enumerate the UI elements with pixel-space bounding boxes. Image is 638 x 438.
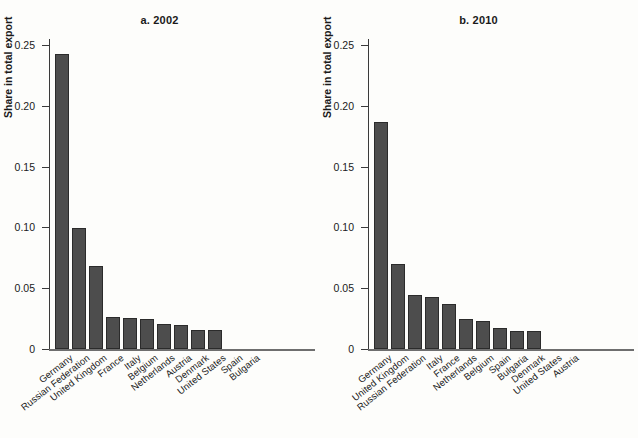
panel-a-title: a. 2002: [0, 14, 319, 26]
bar: [493, 328, 507, 349]
bar: [174, 325, 188, 349]
bar: [408, 295, 422, 349]
panel-b-y-tick-label: 0: [348, 343, 354, 355]
panel-b-y-axis-line: [368, 39, 369, 350]
panel-a-y-tick-label: 0.05: [15, 282, 35, 294]
panel-b-title: b. 2010: [319, 14, 638, 26]
panel-b-y-tick-label: 0.15: [334, 161, 354, 173]
bar-cell: [206, 45, 223, 349]
bar: [89, 266, 103, 349]
panel-a-x-tick-labels: GermanyRussian FederationUnited KingdomF…: [53, 352, 315, 438]
bar-cell: [53, 45, 70, 349]
panel-a-y-tick-mark: [42, 288, 49, 289]
bar: [374, 122, 388, 349]
bar: [106, 317, 120, 349]
panel-a-y-tick-label: 0.25: [15, 39, 35, 51]
bar: [191, 330, 205, 349]
bar-cell: [372, 45, 389, 349]
figure-two-panel-bar-charts: a. 2002 Share in total export 00.050.100…: [0, 0, 638, 438]
bar-cell: [542, 45, 559, 349]
bar-cell: [138, 45, 155, 349]
bar-cell: [559, 45, 576, 349]
bar: [72, 228, 86, 349]
bar-cell: [240, 45, 257, 349]
panel-b-y-tick-label: 0.10: [334, 221, 354, 233]
bar: [527, 331, 541, 349]
panel-a-plot-area: 00.050.100.150.200.25: [53, 45, 315, 349]
panel-a-y-tick-mark: [42, 167, 49, 168]
panel-a-2002: a. 2002 Share in total export 00.050.100…: [0, 0, 319, 438]
bar: [459, 319, 473, 349]
bar-cell: [440, 45, 457, 349]
bar-cell: [474, 45, 491, 349]
panel-a-bars: [53, 45, 257, 349]
panel-b-y-tick-mark: [361, 349, 368, 350]
bar-cell: [457, 45, 474, 349]
panel-a-y-tick-label: 0: [29, 343, 35, 355]
bar-cell: [223, 45, 240, 349]
bar-cell: [423, 45, 440, 349]
bar-cell: [155, 45, 172, 349]
panel-b-y-tick-mark: [361, 45, 368, 46]
bar: [442, 304, 456, 349]
bar-cell: [525, 45, 542, 349]
panel-b-y-axis-title: Share in total export: [321, 0, 333, 118]
panel-b-y-tick-label: 0.25: [334, 39, 354, 51]
panel-b-x-tick-labels: GermanyUnited KingdomRussian FederationI…: [372, 352, 634, 438]
panel-b-y-tick-label: 0.05: [334, 282, 354, 294]
bar-cell: [121, 45, 138, 349]
panel-a-y-axis-line: [49, 39, 50, 350]
panel-b-x-axis-line: [368, 349, 634, 351]
bar: [510, 331, 524, 349]
bar: [123, 318, 137, 349]
panel-b-y-tick-mark: [361, 106, 368, 107]
panel-b-y-tick-label: 0.20: [334, 100, 354, 112]
panel-a-y-axis-title: Share in total export: [2, 0, 14, 118]
bar: [208, 330, 222, 349]
bar-cell: [508, 45, 525, 349]
panel-a-y-tick-mark: [42, 349, 49, 350]
panel-b-2010: b. 2010 Share in total export 00.050.100…: [319, 0, 638, 438]
panel-b-bars: [372, 45, 576, 349]
panel-b-plot-area: 00.050.100.150.200.25: [372, 45, 634, 349]
bar-cell: [189, 45, 206, 349]
bar: [157, 324, 171, 349]
panel-a-y-tick-label: 0.20: [15, 100, 35, 112]
bar: [55, 54, 69, 349]
bar: [140, 319, 154, 349]
bar-cell: [406, 45, 423, 349]
panel-a-y-tick-mark: [42, 106, 49, 107]
bar: [476, 321, 490, 349]
panel-a-y-tick-mark: [42, 45, 49, 46]
panel-a-y-tick-label: 0.10: [15, 221, 35, 233]
bar: [425, 297, 439, 349]
bar-cell: [389, 45, 406, 349]
panel-a-y-tick-label: 0.15: [15, 161, 35, 173]
bar-cell: [87, 45, 104, 349]
bar-cell: [70, 45, 87, 349]
panel-a-x-axis-line: [49, 349, 315, 351]
panel-a-y-tick-mark: [42, 227, 49, 228]
bar-cell: [104, 45, 121, 349]
bar: [391, 264, 405, 349]
bar-cell: [172, 45, 189, 349]
panel-b-y-tick-mark: [361, 227, 368, 228]
panel-b-y-tick-mark: [361, 288, 368, 289]
panel-b-y-tick-mark: [361, 167, 368, 168]
bar-cell: [491, 45, 508, 349]
